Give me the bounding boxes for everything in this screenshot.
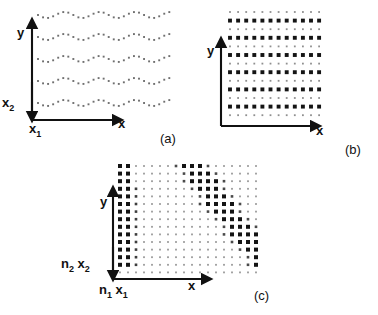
panel-b-y-label: y	[207, 44, 214, 57]
panel-c-tag: (c)	[254, 288, 269, 303]
panel-a-x1-label: x1	[29, 122, 41, 139]
panel-c: x y n1 x1 n2 x2 (c)	[55, 155, 315, 315]
figure-root: x y x1 x2 (a) x y (b)	[0, 0, 378, 315]
panel-c-axes	[55, 155, 315, 315]
panel-a-tag: (a)	[160, 131, 176, 146]
panel-c-n2x2-label: n2 x2	[61, 257, 90, 274]
panel-b-axes	[190, 0, 378, 160]
panel-c-x-label: x	[188, 279, 195, 292]
panel-a-y-label: y	[17, 26, 24, 39]
panel-b: x y (b)	[190, 0, 378, 160]
panel-c-n1x1-label: n1 x1	[99, 283, 128, 300]
panel-b-tag: (b)	[345, 142, 361, 157]
panel-a-x2-label: x2	[2, 96, 14, 113]
panel-a-x-label: x	[118, 117, 125, 130]
panel-b-x-label: x	[316, 124, 323, 137]
panel-c-y-label: y	[100, 195, 107, 208]
panel-a-axes	[0, 0, 180, 152]
panel-a: x y x1 x2 (a)	[0, 0, 180, 152]
